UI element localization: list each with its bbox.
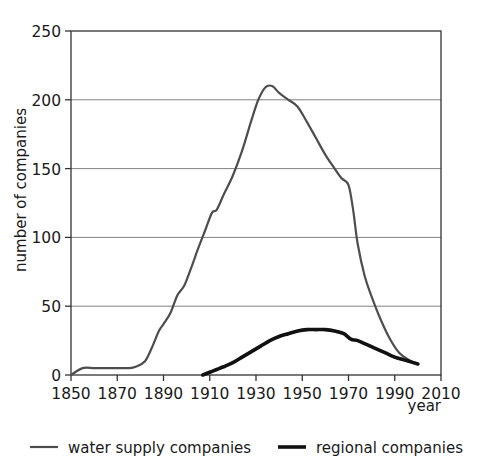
x-tick-label-1890: 1890: [144, 385, 183, 403]
chart-legend: water supply companiesregional companies: [30, 439, 463, 457]
y-tick-label-50: 50: [41, 298, 61, 316]
chart-container: 250200150100500 185018701890191019301950…: [0, 0, 479, 468]
x-tick-label-1850: 1850: [51, 385, 90, 403]
legend-label-regional-companies: regional companies: [316, 439, 463, 457]
x-tick-label-1970: 1970: [329, 385, 368, 403]
x-axis-tick-labels: 185018701890191019301950197019902010: [51, 385, 460, 403]
x-axis-title: year: [408, 397, 442, 415]
x-tick-label-1910: 1910: [190, 385, 229, 403]
y-tick-label-200: 200: [31, 92, 61, 110]
line-chart: 250200150100500 185018701890191019301950…: [0, 0, 479, 468]
legend-label-water-supply-companies: water supply companies: [68, 439, 251, 457]
y-axis-title: number of companies: [12, 108, 30, 272]
x-tick-label-1930: 1930: [236, 385, 275, 403]
y-tick-label-0: 0: [51, 367, 61, 385]
x-tick-label-1950: 1950: [283, 385, 322, 403]
y-tick-label-100: 100: [31, 229, 61, 247]
x-tick-label-1870: 1870: [98, 385, 137, 403]
y-tick-label-250: 250: [31, 23, 61, 41]
y-tick-label-150: 150: [31, 161, 61, 179]
